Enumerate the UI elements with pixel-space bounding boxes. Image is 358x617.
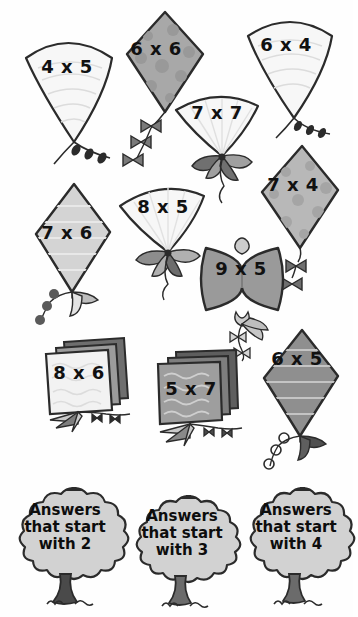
tree-answers-2[interactable]	[5, 484, 130, 617]
tree-answers-4[interactable]	[238, 484, 356, 617]
kite-5x7[interactable]	[152, 348, 262, 458]
kite-4x5[interactable]	[18, 32, 128, 162]
kite-7x6[interactable]	[28, 180, 128, 320]
kite-8x6[interactable]	[40, 336, 150, 446]
tree-answers-3[interactable]	[124, 492, 242, 617]
kite-6x5[interactable]	[258, 326, 358, 461]
